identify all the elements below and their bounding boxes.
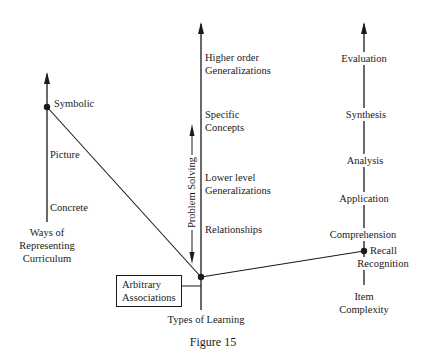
label-picture: Picture [50,148,80,161]
problem-solving-label: Problem Solving [186,155,197,230]
label-higher-order-generalizations: Higher order Generalizations [205,51,271,77]
label-application: Application [339,192,389,205]
label-lower-level-generalizations: Lower level Generalizations [205,171,271,197]
center-axis-title: Types of Learning [168,313,245,326]
label-comprehension: Comprehension [330,228,397,241]
left-axis [44,72,50,222]
label-specific-concepts: Specific Concepts [205,108,244,134]
arbitrary-associations-box: Arbitrary Associations [116,275,182,307]
label-evaluation: Evaluation [341,52,387,65]
label-recognition: Recognition [357,257,408,270]
label-concrete: Concrete [50,201,88,214]
up-arrow-icon [190,124,195,136]
left-axis-title: Ways of Representing Curriculum [19,226,74,265]
figure-caption: Figure 15 [190,336,236,349]
center-axis [198,22,204,310]
label-analysis: Analysis [347,154,384,167]
up-arrow-icon [361,22,367,34]
up-arrow-icon [44,72,50,84]
origin-to-recall-line [201,251,364,277]
label-synthesis: Synthesis [346,108,386,121]
up-arrow-icon [198,22,204,34]
right-axis-title: Item Complexity [339,290,389,316]
label-recall: Recall [370,244,397,257]
label-relationships: Relationships [205,223,262,236]
down-arrow-icon [190,252,195,264]
label-symbolic: Symbolic [54,97,94,110]
